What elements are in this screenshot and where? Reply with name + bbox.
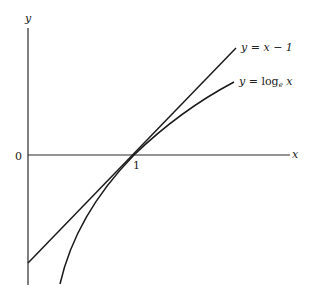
y-axis-label: y <box>24 12 32 25</box>
tick-label-1: 1 <box>133 159 140 172</box>
log-curve-label: y = loge x <box>238 75 293 89</box>
x-axis-label: x <box>292 148 299 161</box>
origin-label: 0 <box>15 150 22 163</box>
log-curve <box>60 82 234 284</box>
line-curve-label: y = x − 1 <box>240 41 293 54</box>
diagram-canvas: y x 0 1 y = x − 1 y = loge x <box>0 0 315 299</box>
